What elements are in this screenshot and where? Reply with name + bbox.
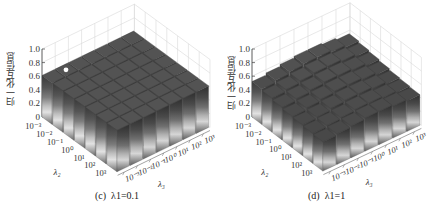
lambda2-tick-label: 10³: [301, 168, 313, 178]
lambda3-tick-label: 10²: [189, 139, 203, 152]
lambda3-tick-label: 10⁰: [372, 149, 388, 163]
caption-param: λ1=0.1: [111, 190, 139, 201]
highlight-marker: [64, 67, 69, 72]
bar: [107, 117, 130, 172]
z-tick-label: 0.6: [29, 71, 41, 81]
z-tick-label: 0.6: [239, 71, 251, 81]
bar3d-chart-d: 00.20.40.60.81.010⁻³10⁻²10⁻¹10⁰10¹10²10³…: [222, 0, 445, 212]
lambda2-axis-name: λ₂: [53, 167, 61, 177]
bar3d-chart-c: 00.20.40.60.81.010⁻³10⁻²10⁻¹10⁰10¹10²10³…: [0, 0, 222, 212]
lambda2-tick-label: 10⁰: [61, 145, 74, 155]
lambda3-tick-label: 10²: [400, 137, 414, 150]
lambda3-tick-label: 10³: [203, 132, 217, 145]
lambda3-tick-label: 10¹: [176, 145, 190, 158]
chart-panel-c: 00.20.40.60.81.010⁻³10⁻²10⁻¹10⁰10¹10²10³…: [0, 0, 222, 212]
lambda2-tick-label: 10¹: [74, 153, 86, 163]
z-tick-label: 0.8: [29, 58, 41, 68]
lambda3-axis-name: λ₃: [157, 179, 165, 189]
chart-panel-d: 00.20.40.60.81.010⁻³10⁻²10⁻¹10⁰10¹10²10³…: [222, 0, 445, 212]
z-tick-label: 0.2: [239, 98, 250, 108]
lambda2-tick-label: 10²: [84, 160, 96, 170]
z-axis-label: 归一化互信息: [3, 52, 16, 106]
caption-label: (d): [308, 190, 320, 201]
z-tick-label: 1.0: [239, 44, 251, 54]
lambda2-axis-name: λ₂: [260, 167, 268, 177]
z-tick-label: 0.2: [29, 98, 40, 108]
z-tick-label: 0.8: [239, 58, 251, 68]
caption-c: (c) λ1=0.1: [95, 190, 139, 201]
lambda3-tick-label: 10³: [414, 130, 428, 143]
lambda3-axis-name: λ₃: [365, 177, 373, 187]
bar: [313, 128, 336, 171]
lambda2-tick-label: 10⁰: [269, 144, 282, 154]
lambda2-tick-label: 10³: [95, 168, 107, 178]
lambda3-tick-label: 10¹: [386, 143, 400, 156]
z-tick-label: 0.4: [29, 85, 41, 95]
z-tick-label: 0.4: [239, 85, 251, 95]
z-tick-label: 1.0: [29, 44, 41, 54]
caption-param: λ1=1: [325, 190, 346, 201]
caption-d: (d) λ1=1: [308, 190, 345, 201]
z-axis-label: 归一化互信息: [224, 56, 237, 110]
caption-label: (c): [95, 190, 106, 201]
